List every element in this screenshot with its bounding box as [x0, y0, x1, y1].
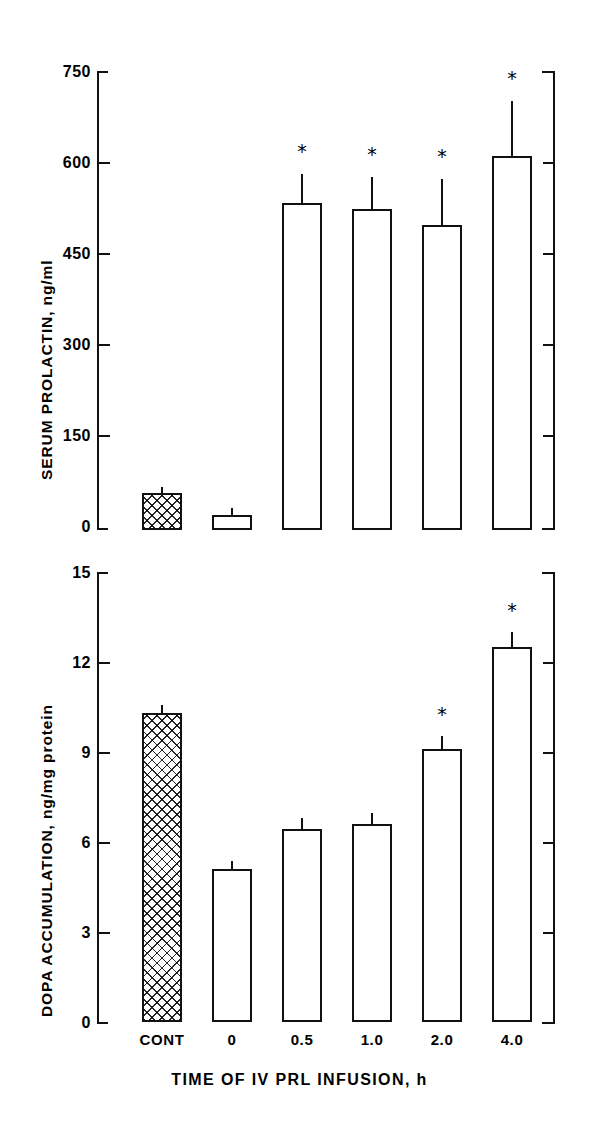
top-right-axis-spine [553, 71, 555, 530]
top-right-tick-600 [543, 162, 554, 164]
bottom-errorbar-4-0 [511, 632, 513, 649]
top-errorbar-0-5 [301, 174, 303, 205]
xtick-label-cont: CONT [132, 1032, 192, 1047]
top-bar-2-0 [422, 225, 462, 530]
top-errorbar-2-0 [441, 179, 443, 227]
top-ytick-300: 300 [46, 337, 91, 353]
bottom-left-axis-cap-lower [97, 1022, 108, 1024]
bottom-right-tick-6 [543, 842, 554, 844]
top-bar-1-0 [352, 209, 392, 530]
top-ytick-600: 600 [46, 155, 91, 171]
top-bar-0 [212, 515, 252, 530]
top-left-tick-450 [99, 253, 110, 255]
bottom-left-tick-9 [99, 752, 110, 754]
xtick-label-0-5: 0.5 [272, 1032, 332, 1047]
bottom-errorbar-2-0 [441, 736, 443, 751]
top-right-axis-cap-lower [542, 528, 555, 530]
bottom-left-tick-12 [99, 662, 110, 664]
top-left-axis-spine [97, 71, 99, 530]
top-errorbar-0 [231, 508, 233, 516]
bottom-bar-1-0 [352, 824, 392, 1022]
bottom-errorbar-cont [161, 705, 163, 715]
bottom-bar-2-0 [422, 749, 462, 1022]
bottom-right-tick-3 [543, 932, 554, 934]
top-left-axis-cap-lower [97, 528, 108, 530]
top-ytick-150: 150 [46, 428, 91, 444]
top-errorbar-cont [161, 487, 163, 495]
top-panel-y-axis-label: SERUM PROLACTIN, ng/ml [38, 260, 56, 480]
bottom-right-tick-12 [543, 662, 554, 664]
xtick-label-1-0: 1.0 [342, 1032, 402, 1047]
top-bar-4-0 [492, 156, 532, 530]
top-significance-star-0-5: * [294, 142, 310, 161]
bottom-ytick-0: 0 [48, 1015, 91, 1031]
top-ytick-750: 750 [46, 64, 91, 80]
xtick-label-2-0: 2.0 [412, 1032, 472, 1047]
top-right-tick-450 [543, 253, 554, 255]
top-significance-star-2-0: * [434, 147, 450, 166]
bottom-right-axis-spine [553, 572, 555, 1024]
top-ytick-0: 0 [46, 519, 91, 535]
top-left-axis-cap-upper [97, 71, 108, 73]
top-significance-star-1-0: * [364, 145, 380, 164]
bottom-left-axis-spine [97, 572, 99, 1024]
bottom-ytick-3: 3 [48, 925, 91, 941]
figure-container: SERUM PROLACTIN, ng/ml 750 600 450 300 1… [0, 0, 599, 1147]
bottom-bar-cont [142, 713, 182, 1022]
x-axis-title: TIME OF IV PRL INFUSION, h [0, 1071, 599, 1089]
bottom-significance-star-2-0: * [434, 705, 450, 724]
top-errorbar-1-0 [371, 177, 373, 211]
top-errorbar-4-0 [511, 101, 513, 158]
top-right-axis-cap-upper [542, 71, 555, 73]
top-right-tick-300 [543, 344, 554, 346]
bottom-right-axis-cap-lower [542, 1022, 555, 1024]
bottom-bar-0-5 [282, 829, 322, 1022]
bottom-right-tick-9 [543, 752, 554, 754]
bottom-bar-0 [212, 869, 252, 1022]
bottom-left-axis-cap-upper [97, 572, 108, 574]
dopa-accumulation-panel: DOPA ACCUMULATION, ng/mg protein 15 12 9… [0, 545, 599, 1045]
bottom-errorbar-0-5 [301, 818, 303, 831]
top-right-tick-150 [543, 435, 554, 437]
bottom-ytick-9: 9 [48, 745, 91, 761]
serum-prolactin-panel: SERUM PROLACTIN, ng/ml 750 600 450 300 1… [0, 0, 599, 545]
bottom-ytick-6: 6 [48, 835, 91, 851]
bottom-ytick-12: 12 [48, 655, 91, 671]
bottom-significance-star-4-0: * [504, 601, 520, 620]
top-left-tick-150 [99, 435, 110, 437]
bottom-ytick-15: 15 [48, 565, 91, 581]
top-left-tick-300 [99, 344, 110, 346]
top-significance-star-4-0: * [504, 69, 520, 88]
bottom-right-axis-cap-upper [542, 572, 555, 574]
top-bar-0-5 [282, 203, 322, 530]
bottom-bar-4-0 [492, 647, 532, 1022]
bottom-errorbar-0 [231, 861, 233, 871]
top-ytick-450: 450 [46, 246, 91, 262]
bottom-left-tick-6 [99, 842, 110, 844]
top-left-tick-600 [99, 162, 110, 164]
xtick-label-4-0: 4.0 [482, 1032, 542, 1047]
top-bar-cont [142, 493, 182, 530]
bottom-errorbar-1-0 [371, 813, 373, 826]
bottom-left-tick-3 [99, 932, 110, 934]
xtick-label-0: 0 [202, 1032, 262, 1047]
